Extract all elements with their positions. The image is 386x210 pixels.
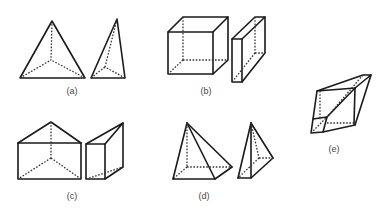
geometric-solids-diagram: (a) (b) (c) (d) (e) <box>0 0 386 210</box>
shape-c-prism-front <box>18 122 81 179</box>
label-c: (c) <box>67 191 78 201</box>
label-a: (a) <box>67 86 78 96</box>
label-e: (e) <box>329 144 340 154</box>
diagram-drawing <box>0 0 386 210</box>
shape-e-composite <box>311 75 371 133</box>
label-d: (d) <box>199 191 210 201</box>
shape-d-pyramid-small <box>238 123 273 178</box>
label-b: (b) <box>201 86 212 96</box>
shape-d-pyramid-large <box>173 123 232 179</box>
shape-a-tetrahedron-large <box>20 21 85 78</box>
shape-b-cube <box>168 17 228 74</box>
shape-c-prism-side <box>86 123 123 179</box>
shape-a-tetrahedron-small <box>91 19 125 78</box>
shape-b-slab <box>232 17 265 82</box>
